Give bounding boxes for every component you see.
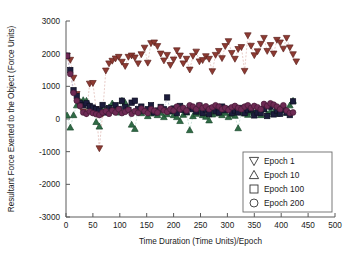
data-point-triangle-down: [245, 33, 252, 39]
x-tick-label: 300: [221, 221, 235, 230]
x-tick-label: 350: [247, 221, 261, 230]
data-point-triangle-down: [170, 57, 177, 63]
data-point-triangle-down: [286, 45, 293, 51]
data-point-triangle-down: [270, 51, 277, 57]
data-point-triangle-down: [293, 59, 300, 65]
x-tick-label: 450: [301, 221, 315, 230]
data-point-triangle-up: [235, 125, 242, 131]
data-point-triangle-up: [93, 119, 100, 125]
data-point-triangle-down: [157, 51, 164, 57]
data-point-triangle-down: [209, 69, 216, 75]
chart-svg: -3000-2000-10000100020003000050100150200…: [0, 0, 346, 266]
data-point-square: [132, 98, 137, 103]
data-point-square: [265, 113, 270, 118]
legend-label: Epoch 100: [264, 184, 304, 194]
data-point-triangle-down: [177, 53, 184, 59]
data-point-triangle-down: [103, 68, 110, 74]
data-point-triangle-down: [138, 52, 145, 58]
legend-label: Epoch 10: [264, 170, 300, 180]
y-tick-label: 2000: [42, 50, 61, 59]
y-tick-label: -2000: [39, 180, 60, 189]
data-point-circle: [74, 98, 80, 104]
series-line: [67, 35, 296, 148]
y-tick-label: -1000: [39, 148, 60, 157]
data-point-triangle-down: [186, 67, 193, 73]
data-point-triangle-down: [144, 60, 151, 66]
data-point-triangle-down: [219, 56, 226, 62]
data-point-circle: [67, 71, 73, 77]
series-markers-epoch-1: [64, 33, 300, 152]
x-tick-label: 150: [140, 221, 154, 230]
data-point-triangle-down: [122, 64, 129, 70]
data-point-triangle-up: [128, 121, 135, 127]
data-point-triangle-up: [186, 127, 193, 133]
data-point-triangle-down: [241, 68, 248, 74]
x-tick-label: 100: [113, 221, 127, 230]
data-point-triangle-down: [135, 61, 142, 67]
data-point-triangle-down: [164, 52, 171, 58]
y-axis-title: Resultant Force Exerted to the Object (F…: [7, 25, 16, 212]
data-point-triangle-down: [248, 43, 255, 49]
data-point-circle: [258, 106, 264, 112]
data-point-circle: [71, 90, 77, 96]
x-tick-label: 250: [194, 221, 208, 230]
series-epoch-1: [67, 35, 296, 148]
data-point-triangle-down: [154, 44, 161, 50]
data-point-triangle-down: [267, 43, 274, 49]
data-point-triangle-down: [180, 61, 187, 67]
data-point-triangle-down: [222, 44, 229, 50]
data-point-triangle-down: [228, 50, 235, 56]
data-point-circle: [290, 110, 296, 116]
chart-figure: -3000-2000-10000100020003000050100150200…: [0, 0, 346, 266]
data-point-triangle-down: [167, 63, 174, 69]
legend-item-epoch-100[interactable]: Epoch 100: [250, 184, 304, 194]
data-point-triangle-down: [264, 48, 271, 54]
data-point-triangle-down: [96, 146, 103, 152]
data-point-square: [164, 95, 169, 100]
data-point-triangle-down: [257, 41, 264, 47]
data-point-triangle-down: [280, 46, 287, 52]
data-point-circle: [77, 103, 83, 109]
legend-label: Epoch 1: [264, 156, 295, 166]
plot-area: [64, 33, 300, 152]
data-point-triangle-down: [141, 45, 148, 51]
x-tick-label: 50: [88, 221, 98, 230]
x-axis-title: Time Duration (Time Units)/Epoch: [139, 237, 263, 246]
data-point-triangle-down: [161, 58, 168, 64]
x-tick-label: 0: [64, 221, 69, 230]
data-point-square: [100, 102, 105, 107]
y-tick-label: -3000: [39, 213, 60, 222]
y-tick-label: 1000: [42, 82, 61, 91]
data-point-circle: [64, 53, 70, 59]
data-point-circle: [184, 108, 190, 114]
y-tick-label: 3000: [42, 17, 61, 26]
data-point-square: [290, 99, 295, 104]
data-point-triangle-down: [277, 40, 284, 46]
data-point-square: [119, 98, 124, 103]
data-point-triangle-up: [67, 124, 74, 130]
data-point-triangle-down: [290, 52, 297, 58]
data-point-triangle-down: [232, 56, 239, 62]
x-tick-label: 500: [328, 221, 342, 230]
legend-label: Epoch 200: [264, 198, 304, 208]
data-point-triangle-down: [261, 35, 268, 41]
data-point-triangle-down: [190, 53, 197, 59]
data-point-triangle-down: [283, 35, 290, 41]
y-tick-label: 0: [55, 115, 60, 124]
x-tick-label: 200: [167, 221, 181, 230]
x-tick-label: 400: [274, 221, 288, 230]
data-point-circle: [281, 102, 287, 108]
data-point-triangle-up: [70, 112, 77, 118]
data-point-triangle-up: [64, 112, 71, 118]
data-point-triangle-down: [206, 56, 213, 62]
